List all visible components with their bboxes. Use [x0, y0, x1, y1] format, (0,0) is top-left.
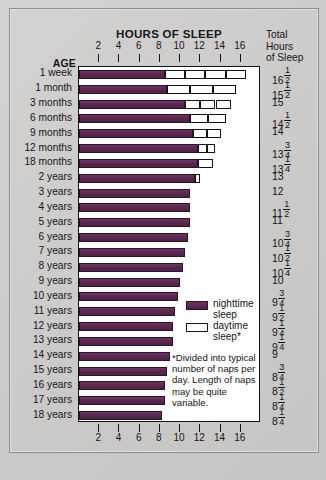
axis-tick: [139, 424, 140, 432]
total-hours-value: 11: [272, 215, 283, 226]
axis-tick: [179, 424, 180, 432]
age-label: 9 months: [0, 127, 72, 138]
axis-tick-label: 10: [168, 432, 190, 443]
day-swatch-icon: [186, 323, 208, 332]
bar-row: [79, 174, 261, 183]
nighttime-sleep-segment: [79, 144, 198, 153]
axis-tick-label: 6: [128, 40, 150, 51]
nighttime-sleep-segment: [79, 203, 190, 212]
axis-tick-label: 8: [148, 40, 170, 51]
daytime-nap-segment: [207, 144, 216, 153]
daytime-nap-segment: [165, 70, 185, 79]
axis-tick-label: 12: [188, 40, 210, 51]
nighttime-sleep-segment: [79, 159, 198, 168]
axis-tick: [199, 424, 200, 432]
bar-row: [79, 70, 261, 79]
axis-tick-label: 14: [209, 40, 231, 51]
sleep-chart-figure: HOURS OF SLEEP AGE Total Hours of Sleep …: [0, 0, 326, 480]
daytime-nap-segment: [208, 114, 226, 123]
daytime-nap-segment: [213, 85, 236, 94]
footnote: *Divided into typical number of naps per…: [172, 352, 258, 408]
legend-daytime-label: daytime sleep*: [213, 320, 259, 342]
nighttime-sleep-segment: [79, 100, 185, 109]
bar-row: [79, 218, 261, 227]
age-label: 12 months: [0, 142, 72, 153]
nighttime-sleep-segment: [79, 322, 173, 331]
bar-row: [79, 263, 261, 272]
bar-row: [79, 189, 261, 198]
daytime-nap-segment: [226, 70, 246, 79]
legend-night-line-2: sleep: [213, 309, 237, 320]
axis-tick-label: 6: [128, 432, 150, 443]
nighttime-sleep-segment: [79, 307, 175, 316]
axis-tick-label: 8: [148, 432, 170, 443]
age-label: 16 years: [0, 379, 72, 390]
daytime-nap-segment: [190, 114, 208, 123]
daytime-nap-segment: [195, 174, 200, 183]
night-swatch-icon: [186, 301, 208, 310]
bar-row: [79, 248, 261, 257]
nighttime-sleep-segment: [79, 233, 188, 242]
bar-row: [79, 114, 261, 123]
daytime-nap-segment: [216, 100, 231, 109]
legend-item-daytime: daytime sleep*: [186, 322, 258, 344]
age-label: 4 years: [0, 201, 72, 212]
total-hours-value: 12: [272, 186, 284, 197]
nighttime-sleep-segment: [79, 174, 195, 183]
nighttime-sleep-segment: [79, 218, 190, 227]
bar-row: [79, 144, 261, 153]
axis-tick: [159, 424, 160, 432]
nighttime-sleep-segment: [79, 367, 167, 376]
x-axis-top: 246810121416: [78, 40, 260, 62]
daytime-nap-segment: [200, 100, 215, 109]
age-label: 15 years: [0, 364, 72, 375]
legend-day-line-1: daytime: [213, 320, 248, 331]
bar-row: [79, 278, 261, 287]
totals-header-line-1: Total: [266, 29, 324, 41]
total-hours-value: 10: [272, 275, 284, 286]
total-hours-value: 14: [272, 126, 284, 137]
nighttime-sleep-segment: [79, 381, 165, 390]
age-label: 18 years: [0, 409, 72, 420]
daytime-nap-segment: [205, 70, 225, 79]
nighttime-sleep-segment: [79, 337, 173, 346]
age-label: 5 years: [0, 216, 72, 227]
nighttime-sleep-segment: [79, 189, 190, 198]
age-label: 6 months: [0, 112, 72, 123]
age-label: 2 years: [0, 171, 72, 182]
legend-item-nighttime: nighttime sleep: [186, 300, 258, 322]
bar-row: [79, 159, 261, 168]
age-label: 1 month: [0, 82, 72, 93]
bar-row: [79, 100, 261, 109]
nighttime-sleep-segment: [79, 70, 165, 79]
age-label: 8 years: [0, 260, 72, 271]
axis-tick-label: 2: [87, 40, 109, 51]
axis-tick-label: 16: [229, 40, 251, 51]
axis-tick: [179, 54, 180, 62]
nighttime-sleep-segment: [79, 411, 162, 420]
daytime-nap-segment: [185, 70, 205, 79]
bar-row: [79, 203, 261, 212]
nighttime-sleep-segment: [79, 292, 178, 301]
axis-tick: [240, 54, 241, 62]
axis-tick-label: 2: [87, 432, 109, 443]
axis-tick: [159, 54, 160, 62]
nighttime-sleep-segment: [79, 352, 170, 361]
age-label: 17 years: [0, 394, 72, 405]
totals-header-line-3: of Sleep: [266, 52, 324, 64]
total-hours-value: 9: [272, 349, 278, 360]
age-label: 3 months: [0, 97, 72, 108]
totals-header-line-2: Hours: [266, 41, 324, 53]
axis-tick: [240, 424, 241, 432]
bar-row: [79, 85, 261, 94]
bar-row: [79, 233, 261, 242]
age-label: 12 years: [0, 320, 72, 331]
daytime-nap-segment: [185, 100, 200, 109]
totals-column-header: Total Hours of Sleep: [266, 29, 324, 64]
age-label: 3 years: [0, 186, 72, 197]
daytime-nap-segment: [190, 85, 213, 94]
total-hours-value: 814: [272, 408, 285, 427]
age-label: 11 years: [0, 305, 72, 316]
age-label: 18 months: [0, 156, 72, 167]
age-labels-column: 1 week1 month3 months6 months9 months12 …: [0, 66, 74, 422]
